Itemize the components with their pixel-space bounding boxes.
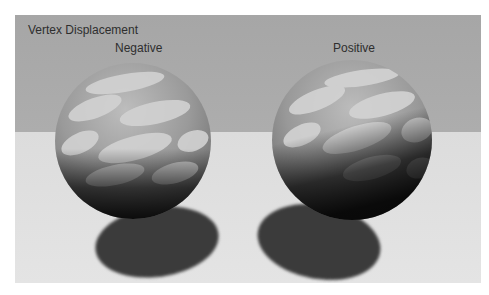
sphere-negative — [55, 63, 211, 219]
label-positive: Positive — [333, 41, 375, 55]
sphere-positive — [272, 60, 432, 220]
render-viewport: Vertex Displacement Negative Positive — [15, 15, 481, 283]
figure-title: Vertex Displacement — [28, 23, 138, 37]
label-negative: Negative — [115, 41, 162, 55]
